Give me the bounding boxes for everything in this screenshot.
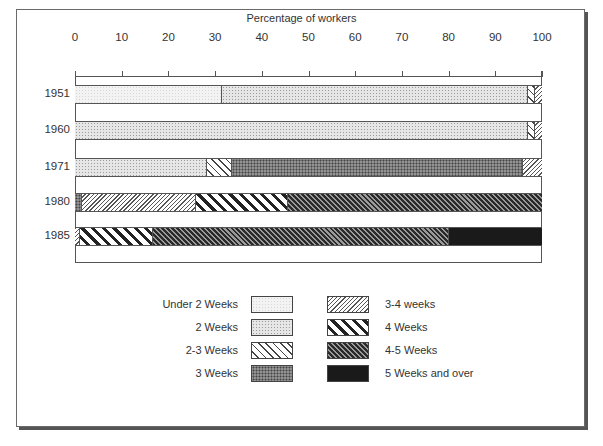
bar-segment-45w — [153, 228, 449, 245]
bar-segment-5w — [449, 228, 542, 245]
bar-1971 — [75, 158, 542, 177]
legend-swatch-23w — [251, 342, 293, 359]
bar-segment-2w — [75, 159, 207, 176]
bar-1960 — [75, 121, 542, 140]
legend-swatch-3w — [251, 365, 293, 382]
x-tick-label: 40 — [255, 31, 268, 43]
bar-segment-34w — [535, 122, 542, 139]
x-tick-label: 30 — [209, 31, 222, 43]
bar-segment-4w — [80, 228, 153, 245]
bar-segment-34w — [82, 194, 196, 211]
bar-segment-34w — [523, 159, 542, 176]
legend-label: Under 2 Weeks — [108, 298, 238, 310]
x-tick-label: 60 — [349, 31, 362, 43]
bar-segment-34w — [535, 86, 542, 103]
row-label: 1980 — [30, 195, 70, 207]
x-tick-label: 100 — [532, 31, 551, 43]
bar-segment-3w — [232, 159, 523, 176]
row-label: 1951 — [30, 87, 70, 99]
legend-swatch-2w — [251, 319, 293, 336]
x-tick-label: 0 — [72, 31, 78, 43]
x-tick-label: 90 — [489, 31, 502, 43]
bar-segment-23w — [528, 122, 535, 139]
x-tick-label: 10 — [115, 31, 128, 43]
legend-swatch-34w — [327, 296, 369, 313]
legend-label: 2 Weeks — [108, 321, 238, 333]
chart-frame — [16, 9, 585, 427]
plot-bottom-border — [75, 262, 542, 263]
legend-label: 5 Weeks and over — [385, 367, 473, 379]
x-tick-label: 20 — [162, 31, 175, 43]
bar-segment-3w — [75, 194, 82, 211]
row-label: 1960 — [30, 123, 70, 135]
legend-label: 4-5 Weeks — [385, 344, 437, 356]
bar-segment-45w — [288, 194, 542, 211]
legend-label: 2-3 Weeks — [108, 344, 238, 356]
legend-swatch-45w — [327, 342, 369, 359]
bar-1951 — [75, 85, 542, 104]
legend-swatch-5w — [327, 365, 369, 382]
x-tick-label: 70 — [395, 31, 408, 43]
bar-segment-2w — [222, 86, 528, 103]
row-label: 1971 — [30, 160, 70, 172]
bar-1980 — [75, 193, 542, 212]
legend-label: 4 Weeks — [385, 321, 428, 333]
bar-segment-2w — [75, 122, 528, 139]
legend-label: 3 Weeks — [108, 367, 238, 379]
row-label: 1985 — [30, 229, 70, 241]
bar-segment-4w — [196, 194, 288, 211]
legend-swatch-under2 — [251, 296, 293, 313]
legend-swatch-4w — [327, 319, 369, 336]
x-axis-title: Percentage of workers — [0, 12, 603, 24]
bar-segment-23w — [207, 159, 232, 176]
x-tick-label: 50 — [302, 31, 315, 43]
bar-1985 — [75, 227, 542, 246]
legend-label: 3-4 weeks — [385, 298, 435, 310]
bar-segment-23w — [528, 86, 535, 103]
x-tick-label: 80 — [442, 31, 455, 43]
bar-segment-under2 — [75, 86, 222, 103]
x-axis-line — [75, 76, 542, 77]
x-tick-mark — [542, 71, 543, 77]
